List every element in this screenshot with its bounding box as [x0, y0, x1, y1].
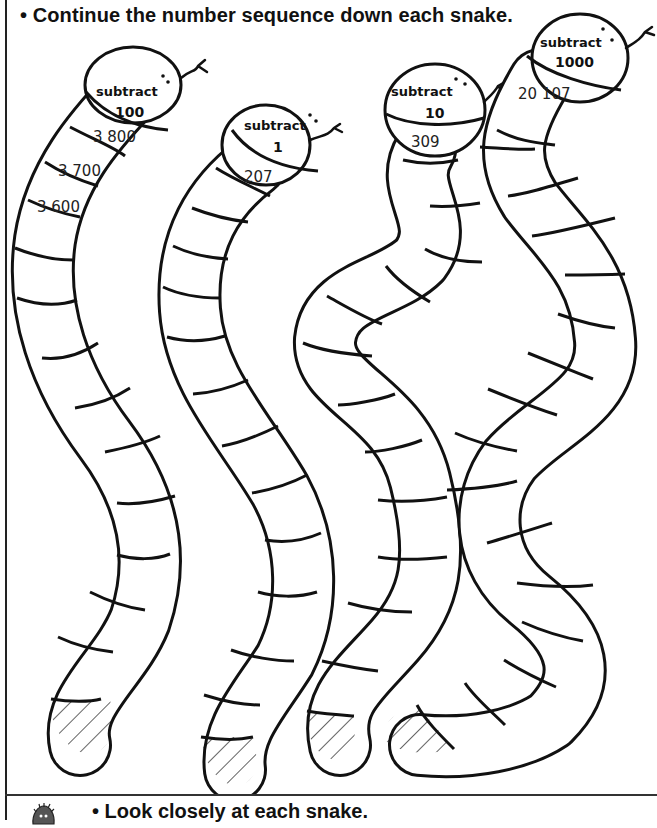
snakes-illustration: subtract 100 3 800 3 700 3 600 sub	[0, 0, 657, 795]
svg-text:1000: 1000	[555, 54, 594, 70]
svg-text:100: 100	[115, 104, 144, 120]
svg-text:subtract: subtract	[244, 118, 306, 133]
svg-text:3 600: 3 600	[37, 198, 80, 216]
svg-text:subtract: subtract	[96, 84, 158, 99]
instruction-bottom: • Look closely at each snake.	[92, 800, 368, 823]
section-divider	[5, 794, 657, 796]
svg-text:20 107: 20 107	[518, 85, 571, 103]
svg-text:subtract: subtract	[391, 84, 453, 99]
svg-text:3 800: 3 800	[93, 128, 136, 146]
svg-text:3 700: 3 700	[58, 162, 101, 180]
svg-text:subtract: subtract	[540, 35, 602, 50]
snake-1: subtract 100 3 800 3 700 3 600	[15, 47, 207, 754]
svg-text:207: 207	[244, 168, 273, 186]
svg-text:10: 10	[425, 105, 445, 121]
svg-text:1: 1	[273, 139, 283, 155]
snake-3: subtract 10 309	[303, 64, 505, 760]
snake-2: subtract 1 207	[163, 105, 342, 785]
svg-text:309: 309	[411, 133, 440, 151]
hedgehog-icon	[30, 802, 56, 828]
